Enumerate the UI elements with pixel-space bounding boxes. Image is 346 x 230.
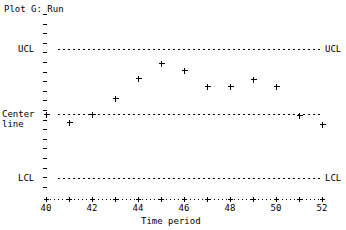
x-axis-tick-label: 50 bbox=[271, 203, 282, 213]
data-point-marker bbox=[228, 84, 234, 90]
x-axis-tick bbox=[136, 197, 141, 203]
data-point-marker bbox=[136, 76, 142, 82]
x-axis-tick bbox=[44, 197, 49, 203]
x-axis-tick bbox=[182, 197, 187, 203]
x-axis-tick-label: 52 bbox=[317, 203, 328, 213]
x-axis-tick bbox=[274, 197, 279, 203]
x-axis-line bbox=[44, 197, 325, 203]
x-axis-tick bbox=[90, 197, 95, 203]
y-axis-ticks bbox=[43, 15, 47, 188]
x-axis-tick bbox=[205, 197, 210, 203]
x-axis-tick bbox=[228, 197, 233, 203]
data-point-marker bbox=[320, 122, 326, 128]
x-axis-tick bbox=[113, 197, 118, 203]
x-axis-tick bbox=[159, 197, 164, 203]
data-point-marker bbox=[205, 84, 211, 90]
x-axis-tick-label: 48 bbox=[225, 203, 236, 213]
plot-canvas bbox=[0, 0, 346, 230]
data-point-marker bbox=[159, 61, 165, 67]
x-axis-tick bbox=[320, 197, 325, 203]
data-point-marker bbox=[251, 77, 257, 83]
data-point-marker bbox=[67, 120, 73, 126]
data-point-marker bbox=[182, 68, 188, 74]
data-point-marker bbox=[297, 113, 303, 119]
x-axis-tick-label: 40 bbox=[41, 203, 52, 213]
x-axis-tick-label: 44 bbox=[133, 203, 144, 213]
x-axis-tick bbox=[297, 197, 302, 203]
x-axis-tick bbox=[251, 197, 256, 203]
control-limit-lines bbox=[58, 50, 322, 179]
x-axis-tick bbox=[67, 197, 72, 203]
data-point-marker bbox=[113, 96, 119, 102]
data-point-marker bbox=[90, 112, 96, 118]
data-point-markers bbox=[44, 61, 326, 128]
data-point-marker bbox=[44, 112, 50, 118]
data-point-marker bbox=[274, 84, 280, 90]
x-axis-tick-label: 46 bbox=[179, 203, 190, 213]
x-axis-tick-label: 42 bbox=[87, 203, 98, 213]
